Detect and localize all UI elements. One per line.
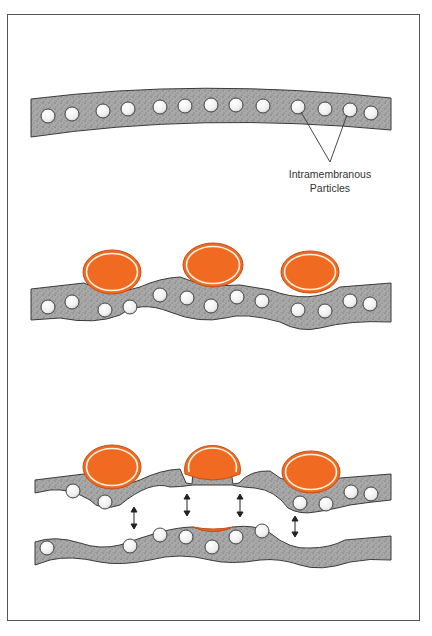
vesicles <box>83 445 340 493</box>
double-arrow-icon <box>131 507 137 529</box>
vesicle <box>183 243 243 287</box>
double-arrow-icon <box>292 516 298 537</box>
vesicles <box>83 243 339 294</box>
panel-1-membrane <box>31 88 391 162</box>
particles-label-line1: Intramembranous <box>265 167 395 181</box>
vesicle <box>83 250 141 294</box>
particles-label-line2: Particles <box>265 181 395 195</box>
double-arrow-icon <box>237 494 243 517</box>
fused-vesicle-top <box>185 445 241 480</box>
panel-2-membrane <box>31 243 391 330</box>
particles-label: Intramembranous Particles <box>265 167 395 195</box>
vesicle <box>83 445 141 489</box>
vesicle <box>281 251 339 293</box>
panel-3-fractured-membrane <box>35 445 391 568</box>
double-arrow-icon <box>184 494 190 516</box>
freeze-fracture-diagram <box>0 0 432 636</box>
vesicle <box>282 451 340 493</box>
